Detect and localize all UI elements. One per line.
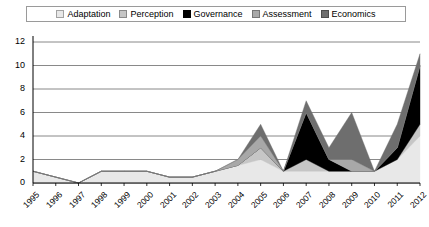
legend-item[interactable]: Governance <box>183 10 243 19</box>
y-axis-tick-label: 10 <box>9 61 25 70</box>
legend-swatch-icon <box>56 10 64 18</box>
legend-swatch-icon <box>321 10 329 18</box>
plot-area: 0246810121995199619971998199920002001200… <box>0 28 429 227</box>
y-axis-tick-label: 4 <box>9 131 25 140</box>
area-series-economics <box>33 54 420 183</box>
legend-item-label: Perception <box>130 10 173 19</box>
legend-item-label: Assessment <box>263 10 312 19</box>
legend-item[interactable]: Economics <box>321 10 376 19</box>
legend-item-label: Adaptation <box>67 10 110 19</box>
y-axis-tick-label: 6 <box>9 108 25 117</box>
legend-item-label: Economics <box>332 10 376 19</box>
y-axis-tick-label: 12 <box>9 37 25 46</box>
legend-item[interactable]: Perception <box>119 10 173 19</box>
series-areas <box>33 54 420 183</box>
chart-container: AdaptationPerceptionGovernanceAssessment… <box>0 0 429 227</box>
legend-item-label: Governance <box>194 10 243 19</box>
legend-swatch-icon <box>252 10 260 18</box>
y-axis-tick-label: 8 <box>9 84 25 93</box>
legend-item[interactable]: Adaptation <box>56 10 110 19</box>
legend-item[interactable]: Assessment <box>252 10 312 19</box>
legend-swatch-icon <box>183 10 191 18</box>
chart-legend: AdaptationPerceptionGovernanceAssessment… <box>26 6 406 22</box>
y-axis-tick-label: 2 <box>9 155 25 164</box>
legend-swatch-icon <box>119 10 127 18</box>
y-axis-tick-label: 0 <box>9 178 25 187</box>
